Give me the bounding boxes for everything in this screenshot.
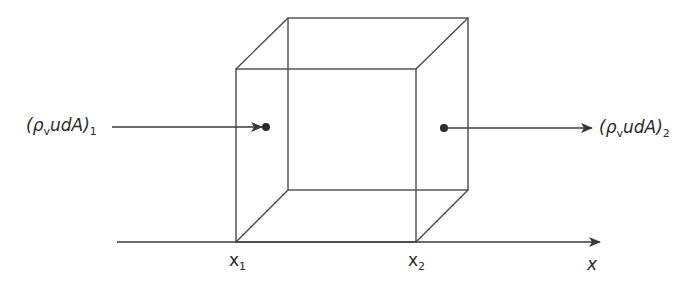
outflow-label-mid: udA) [623,117,663,137]
tick-x2: x2 [408,250,425,273]
control-volume-diagram [0,0,694,284]
outflow-label-sub: 2 [663,127,670,140]
cube [236,18,468,242]
inflow-label-sub: 1 [90,125,97,138]
cube-front-face [236,69,416,242]
axis-label: x [587,254,597,274]
tick-x1-base: x [229,250,239,270]
inflow-label: (ρvudA)1 [26,115,97,138]
tick-x1-sub: 1 [239,260,246,273]
tick-x2-sub: 2 [418,260,425,273]
axis-label-text: x [587,254,597,274]
outflow-label: (ρvudA)2 [599,117,670,140]
inflow-point [262,123,270,131]
inflow-label-mid: udA) [50,115,90,135]
inflow-label-rho: (ρ [26,115,43,135]
outflow-label-rho: (ρ [599,117,616,137]
tick-x2-base: x [408,250,418,270]
tick-x1: x1 [229,250,246,273]
